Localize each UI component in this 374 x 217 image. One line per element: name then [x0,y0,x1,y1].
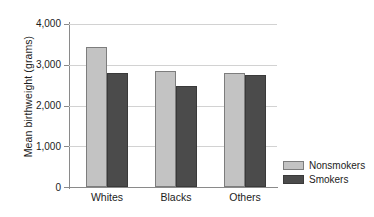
legend-label-nonsmokers: Nonsmokers [309,160,365,171]
bar-whites-nonsmokers [86,47,107,187]
y-tick-label-3000: 3,000 [21,60,61,70]
legend-swatch-smokers [283,175,304,184]
y-tick-label-2000: 2,000 [21,101,61,111]
y-tick-label-4000: 4,000 [21,19,61,29]
gridline-4000 [69,24,277,25]
bar-whites-smokers [107,73,128,188]
bar-others-nonsmokers [224,73,245,188]
bar-chart: Mean birthweight (grams) 4,000 3,000 2,0… [0,0,374,217]
x-category-label-others: Others [210,191,280,203]
x-category-label-whites: Whites [72,191,142,203]
legend-item-nonsmokers: Nonsmokers [283,160,365,171]
legend-item-smokers: Smokers [283,174,365,185]
legend-label-smokers: Smokers [309,174,348,185]
bar-blacks-nonsmokers [155,71,176,187]
legend: Nonsmokers Smokers [283,160,365,185]
plot-area [69,24,277,187]
x-category-label-blacks: Blacks [141,191,211,203]
y-tick-label-0: 0 [21,183,61,193]
y-tick-label-1000: 1,000 [21,142,61,152]
legend-swatch-nonsmokers [283,161,304,170]
y-axis-title: Mean birthweight (grams) [22,3,36,190]
bar-blacks-smokers [176,86,197,187]
bar-others-smokers [245,75,266,187]
x-axis-line [69,187,278,188]
